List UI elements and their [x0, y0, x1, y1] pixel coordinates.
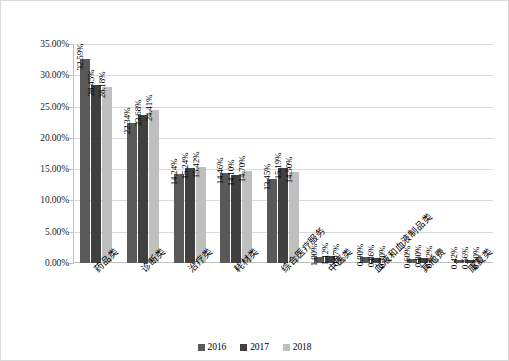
bar-2018-其他费[interactable]: 0.62% [429, 44, 439, 263]
bar-value-label: 23.68% [133, 100, 143, 127]
legend-swatch-icon [198, 344, 205, 351]
bar-2018-诊断类[interactable]: 24.41% [149, 44, 159, 263]
bar-group: 32.59%28.45%28.18% [73, 44, 120, 263]
bar-2018-康复类[interactable]: 0.50% [476, 44, 486, 263]
bar-value-label: 15.24% [180, 152, 190, 179]
y-axis-tick-label: 20.00% [3, 133, 69, 143]
bar-2018-治疗类[interactable]: 15.42% [196, 44, 206, 263]
bar-rect[interactable] [102, 87, 112, 263]
bar-2017-康复类[interactable]: 0.56% [465, 44, 475, 263]
bar-group: 0.90%0.86%0.70% [353, 44, 400, 263]
bar-group: 14.46%14.10%14.70% [213, 44, 260, 263]
bar-2017-综合医疗服务[interactable]: 15.19% [278, 44, 288, 263]
bar-rect[interactable] [267, 179, 277, 263]
y-axis-tick-label: 0.00% [3, 258, 69, 268]
chart-legend: 201620172018 [1, 342, 508, 352]
bar-rect[interactable] [231, 175, 241, 263]
legend-item-2017[interactable]: 2017 [240, 342, 269, 352]
bar-2018-中医类[interactable]: 0.97% [336, 44, 346, 263]
bar-value-label: 15.19% [273, 153, 283, 180]
bar-2017-诊断类[interactable]: 23.68% [138, 44, 148, 263]
bar-value-label: 22.34% [122, 108, 132, 135]
bar-value-label: 13.45% [262, 164, 272, 191]
bar-2016-诊断类[interactable]: 22.34% [127, 44, 137, 263]
bar-rect[interactable] [149, 110, 159, 263]
bar-2018-综合医疗服务[interactable]: 14.50% [289, 44, 299, 263]
bar-rect[interactable] [127, 123, 137, 263]
bar-2016-耗材类[interactable]: 14.46% [220, 44, 230, 263]
legend-label: 2016 [208, 342, 227, 352]
bar-rect[interactable] [185, 168, 195, 263]
legend-label: 2017 [250, 342, 269, 352]
bar-value-label: 32.59% [75, 44, 85, 71]
bar-rect[interactable] [91, 85, 101, 263]
bar-2017-血液和血液制品类[interactable]: 0.86% [371, 44, 381, 263]
bar-2017-耗材类[interactable]: 14.10% [231, 44, 241, 263]
legend-swatch-icon [283, 344, 290, 351]
bar-value-label: 14.70% [237, 156, 247, 183]
bar-value-label: 24.41% [144, 95, 154, 122]
bar-rect[interactable] [174, 174, 184, 263]
y-axis-tick-label: 5.00% [3, 227, 69, 237]
bar-group: 14.24%15.24%15.42% [166, 44, 213, 263]
legend-item-2016[interactable]: 2016 [198, 342, 227, 352]
plot-area: 32.59%28.45%28.18%22.34%23.68%24.41%14.2… [73, 44, 493, 263]
bar-2018-药品类[interactable]: 28.18% [102, 44, 112, 263]
bar-2018-血液和血液制品类[interactable]: 0.70% [382, 44, 392, 263]
y-axis-tick-label: 30.00% [3, 70, 69, 80]
y-axis-tick-label: 35.00% [3, 39, 69, 49]
bar-2016-康复类[interactable]: 0.42% [454, 44, 464, 263]
legend-label: 2018 [293, 342, 312, 352]
x-axis-category-labels: 药品类诊断类治疗类耗材类综合医疗服务中医类血液和血液制品类其他费康复类 [73, 265, 493, 335]
bar-chart: 0.00%5.00%10.00%15.00%20.00%25.00%30.00%… [0, 0, 509, 361]
bar-2016-血液和血液制品类[interactable]: 0.90% [360, 44, 370, 263]
bar-value-label: 15.42% [191, 151, 201, 178]
bar-value-label: 14.24% [169, 159, 179, 186]
legend-item-2018[interactable]: 2018 [283, 342, 312, 352]
legend-swatch-icon [240, 344, 247, 351]
bar-group: 22.34%23.68%24.41% [120, 44, 167, 263]
bar-group: 0.42%0.56%0.50% [446, 44, 493, 263]
bar-value-label: 14.46% [215, 157, 225, 184]
bar-value-label: 0.90% [355, 244, 365, 266]
bar-value-label: 28.45% [86, 70, 96, 97]
bar-2018-耗材类[interactable]: 14.70% [242, 44, 252, 263]
bar-value-label: 14.50% [284, 157, 294, 184]
bar-value-label: 14.10% [226, 160, 236, 187]
y-axis-labels: 0.00%5.00%10.00%15.00%20.00%25.00%30.00%… [1, 44, 69, 263]
bar-value-label: 28.18% [97, 71, 107, 98]
y-axis-tick-label: 10.00% [3, 195, 69, 205]
y-axis-tick-label: 25.00% [3, 102, 69, 112]
bar-rect[interactable] [138, 115, 148, 263]
y-axis-tick-label: 15.00% [3, 164, 69, 174]
bar-group: 13.45%15.19%14.50% [260, 44, 307, 263]
